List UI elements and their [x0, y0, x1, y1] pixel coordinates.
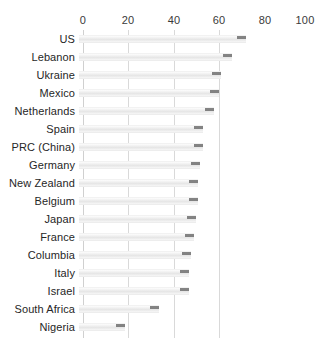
bar-row: Mexico — [0, 84, 324, 102]
bar-end-marker — [187, 216, 196, 219]
bar-row: Italy — [0, 264, 324, 282]
bar-cell — [79, 282, 324, 300]
bar-end-marker — [194, 126, 203, 129]
bar-end-marker — [223, 54, 232, 57]
x-axis-tick-100: 100 — [296, 13, 315, 27]
bar — [79, 233, 194, 241]
bar-row: France — [0, 228, 324, 246]
bar-end-marker — [185, 234, 194, 237]
category-label: Japan — [0, 213, 79, 226]
bar — [79, 107, 214, 115]
bar — [79, 215, 196, 223]
bar — [79, 161, 200, 169]
bar-cell — [79, 102, 324, 120]
category-label: New Zealand — [0, 177, 79, 190]
bar-row: Germany — [0, 156, 324, 174]
category-label: Lebanon — [0, 51, 79, 64]
bar — [79, 53, 232, 61]
bar-cell — [79, 120, 324, 138]
category-label: Nigeria — [0, 321, 79, 334]
category-label: PRC (China) — [0, 141, 79, 154]
bar-cell — [79, 156, 324, 174]
category-label: Spain — [0, 123, 79, 136]
bar — [79, 143, 203, 151]
bar-cell — [79, 210, 324, 228]
category-label: Israel — [0, 285, 79, 298]
bar-end-marker — [182, 252, 191, 255]
bar — [79, 71, 221, 79]
bar-cell — [79, 48, 324, 66]
bar-row: Belgium — [0, 192, 324, 210]
bar-end-marker — [194, 144, 203, 147]
x-axis-tick-labels: 0 20 40 60 80 100 — [0, 13, 324, 29]
bar-end-marker — [191, 162, 200, 165]
x-axis-tick-80: 80 — [259, 13, 272, 27]
bar — [79, 197, 198, 205]
bar-row: Nigeria — [0, 318, 324, 336]
bar-row: Lebanon — [0, 48, 324, 66]
bar-row: Israel — [0, 282, 324, 300]
bar-end-marker — [237, 36, 246, 39]
bar — [79, 179, 198, 187]
category-label: France — [0, 231, 79, 244]
bar-row: PRC (China) — [0, 138, 324, 156]
x-axis-tick-20: 20 — [122, 13, 135, 27]
x-axis-tick-60: 60 — [213, 13, 226, 27]
bar-row: Ukraine — [0, 66, 324, 84]
bar-cell — [79, 192, 324, 210]
x-axis-tick-0: 0 — [80, 13, 86, 27]
bar — [79, 89, 219, 97]
bar — [79, 305, 159, 313]
bar-cell — [79, 66, 324, 84]
category-label: Italy — [0, 267, 79, 280]
category-label: Germany — [0, 159, 79, 172]
bar-end-marker — [180, 270, 189, 273]
bar-cell — [79, 174, 324, 192]
bar-row: Spain — [0, 120, 324, 138]
bar-row: Netherlands — [0, 102, 324, 120]
category-label: South Africa — [0, 303, 79, 316]
category-label: US — [0, 33, 79, 46]
bar-end-marker — [189, 198, 198, 201]
bar — [79, 125, 203, 133]
bar-cell — [79, 30, 324, 48]
bar — [79, 287, 189, 295]
bar-end-marker — [180, 288, 189, 291]
bar-cell — [79, 318, 324, 336]
bar-end-marker — [205, 108, 214, 111]
bar-cell — [79, 228, 324, 246]
bar-end-marker — [212, 72, 221, 75]
bar-row: South Africa — [0, 300, 324, 318]
bar-cell — [79, 84, 324, 102]
bar-row: New Zealand — [0, 174, 324, 192]
bar-cell — [79, 246, 324, 264]
bar-rows: USLebanonUkraineMexicoNetherlandsSpainPR… — [0, 30, 324, 336]
category-label: Columbia — [0, 249, 79, 262]
category-label: Ukraine — [0, 69, 79, 82]
bar-chart: 0 20 40 60 80 100 USLebanonUkraineMexico… — [0, 0, 324, 343]
bar — [79, 251, 191, 259]
x-axis-tick-40: 40 — [168, 13, 181, 27]
bar-cell — [79, 300, 324, 318]
bar — [79, 35, 246, 43]
bar-row: Japan — [0, 210, 324, 228]
category-label: Belgium — [0, 195, 79, 208]
category-label: Mexico — [0, 87, 79, 100]
bar-row: US — [0, 30, 324, 48]
bar-cell — [79, 138, 324, 156]
bar-end-marker — [210, 90, 219, 93]
category-label: Netherlands — [0, 105, 79, 118]
bar-end-marker — [150, 306, 159, 309]
bar-end-marker — [116, 324, 125, 327]
bar-cell — [79, 264, 324, 282]
bar — [79, 269, 189, 277]
bar-end-marker — [189, 180, 198, 183]
bar-row: Columbia — [0, 246, 324, 264]
